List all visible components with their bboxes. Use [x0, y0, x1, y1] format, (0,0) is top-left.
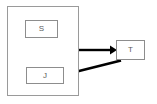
node-s-label: S	[39, 25, 45, 33]
arrow-container-to-t	[79, 46, 117, 55]
node-t[interactable]: T	[116, 40, 145, 60]
node-j[interactable]: J	[26, 67, 64, 84]
node-j-label: J	[43, 72, 47, 80]
diagram-canvas: S J T	[0, 0, 157, 104]
node-t-label: T	[128, 46, 133, 54]
node-s[interactable]: S	[25, 20, 58, 38]
